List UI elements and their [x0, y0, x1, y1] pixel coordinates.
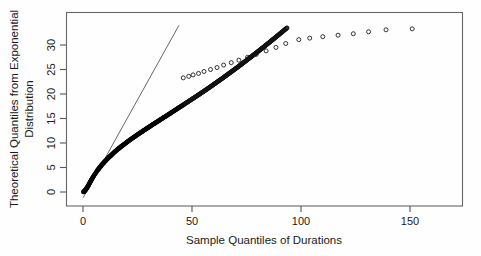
x-tick-label: 50 [186, 215, 198, 227]
y-tick-label: 5 [45, 164, 57, 170]
y-tick-label: 25 [45, 63, 57, 75]
qq-plot-figure: 0 50 100 150 0 5 10 15 20 25 30 Sample Q… [0, 0, 481, 256]
y-tick-label: 30 [45, 39, 57, 51]
y-tick-label: 15 [45, 112, 57, 124]
x-axis-title: Sample Quantiles of Durations [186, 234, 342, 246]
x-tick-label: 0 [80, 215, 86, 227]
y-tick-label: 0 [45, 189, 57, 195]
y-tick-label: 10 [45, 137, 57, 149]
qq-plot-canvas: 0 50 100 150 0 5 10 15 20 25 30 Sample Q… [0, 0, 481, 256]
x-tick-label: 150 [401, 215, 419, 227]
y-axis-title-line1: Theoretical Quantiles from Exponential [8, 10, 20, 208]
x-tick-label: 100 [292, 215, 310, 227]
y-axis-title-line2: Distribution [23, 80, 35, 138]
y-tick-label: 20 [45, 88, 57, 100]
